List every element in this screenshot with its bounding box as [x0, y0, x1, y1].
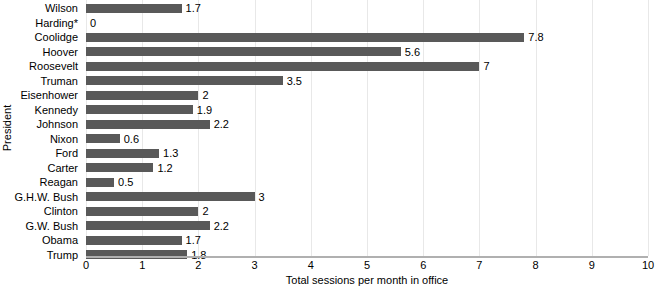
- category-label: Coolidge: [35, 30, 78, 45]
- category-label: Truman: [41, 74, 79, 89]
- bar: [86, 62, 479, 71]
- bar-row: 7.8: [86, 30, 648, 45]
- bar-row: 0.5: [86, 175, 648, 190]
- bar: [86, 163, 153, 172]
- category-label: Hoover: [43, 45, 78, 60]
- x-tick-label: 0: [83, 258, 89, 272]
- bar: [86, 4, 182, 13]
- bar: [86, 134, 120, 143]
- bar-row: 0: [86, 16, 648, 31]
- y-axis-title-text: President: [1, 105, 13, 151]
- category-label: Nixon: [50, 132, 78, 147]
- bar-row: 2: [86, 204, 648, 219]
- bar: [86, 236, 182, 245]
- bar-value-label: 2: [202, 204, 208, 219]
- bar-value-label: 0: [90, 16, 96, 31]
- x-tick-label: 6: [420, 258, 426, 272]
- bar: [86, 192, 255, 201]
- plot-area: 1.707.85.673.521.92.20.61.31.20.5322.21.…: [86, 0, 648, 256]
- category-label: Ford: [55, 146, 78, 161]
- bar: [86, 47, 401, 56]
- bar-value-label: 7.8: [528, 30, 543, 45]
- bar: [86, 33, 524, 42]
- x-tick-label: 8: [533, 258, 539, 272]
- bar-row: 3.5: [86, 74, 648, 89]
- bar-row: 1.9: [86, 103, 648, 118]
- category-label: Harding*: [35, 16, 78, 31]
- x-tick-label: 2: [195, 258, 201, 272]
- category-label: Carter: [47, 161, 78, 176]
- bar-value-label: 5.6: [405, 45, 420, 60]
- category-label: Kennedy: [35, 103, 78, 118]
- bar-value-label: 3: [259, 190, 265, 205]
- category-label: Reagan: [39, 175, 78, 190]
- bar-value-label: 1.2: [157, 161, 172, 176]
- bar: [86, 105, 193, 114]
- category-label: Wilson: [45, 1, 78, 16]
- bar-value-label: 7: [483, 59, 489, 74]
- bar: [86, 120, 210, 129]
- bar-chart: President WilsonHarding*CoolidgeHooverRo…: [0, 0, 665, 290]
- x-tick-label: 9: [589, 258, 595, 272]
- bar: [86, 207, 198, 216]
- bar-row: 2: [86, 88, 648, 103]
- bar: [86, 178, 114, 187]
- bar-value-label: 1.9: [197, 103, 212, 118]
- bar-value-label: 1.3: [163, 146, 178, 161]
- bar-row: 7: [86, 59, 648, 74]
- bar: [86, 76, 283, 85]
- bar-value-label: 0.6: [124, 132, 139, 147]
- x-tick-label: 7: [476, 258, 482, 272]
- category-label: Roosevelt: [29, 59, 78, 74]
- bar-row: 2.2: [86, 219, 648, 234]
- category-label: Eisenhower: [21, 88, 78, 103]
- bar-value-label: 2.2: [214, 117, 229, 132]
- bar-row: 2.2: [86, 117, 648, 132]
- category-label: Trump: [47, 248, 78, 263]
- category-label: Clinton: [44, 204, 78, 219]
- category-label: Obama: [42, 233, 78, 248]
- bar-value-label: 3.5: [287, 74, 302, 89]
- bar-value-label: 2: [202, 88, 208, 103]
- category-label: G.H.W. Bush: [14, 190, 78, 205]
- category-label: G.W. Bush: [25, 219, 78, 234]
- bar-row: 1.2: [86, 161, 648, 176]
- x-axis-ticks: 012345678910: [86, 258, 648, 274]
- bar: [86, 221, 210, 230]
- bar-row: 3: [86, 190, 648, 205]
- bar-row: 1.3: [86, 146, 648, 161]
- bar: [86, 149, 159, 158]
- bar-value-label: 1.7: [186, 233, 201, 248]
- x-tick-label: 1: [139, 258, 145, 272]
- bar-row: 0.6: [86, 132, 648, 147]
- category-label: Johnson: [36, 117, 78, 132]
- bar-row: 1.7: [86, 233, 648, 248]
- y-axis-title: President: [0, 0, 14, 256]
- bar-row: 1.7: [86, 1, 648, 16]
- x-tick-label: 3: [252, 258, 258, 272]
- bar-value-label: 1.7: [186, 1, 201, 16]
- x-tick-label: 5: [364, 258, 370, 272]
- category-axis-labels: WilsonHarding*CoolidgeHooverRooseveltTru…: [14, 0, 82, 256]
- x-tick-label: 4: [308, 258, 314, 272]
- x-tick-label: 10: [642, 258, 654, 272]
- bar-row: 5.6: [86, 45, 648, 60]
- bar-value-label: 0.5: [118, 175, 133, 190]
- bar-value-label: 2.2: [214, 219, 229, 234]
- gridline: [648, 0, 649, 256]
- x-axis-title: Total sessions per month in office: [86, 274, 648, 286]
- bar: [86, 91, 198, 100]
